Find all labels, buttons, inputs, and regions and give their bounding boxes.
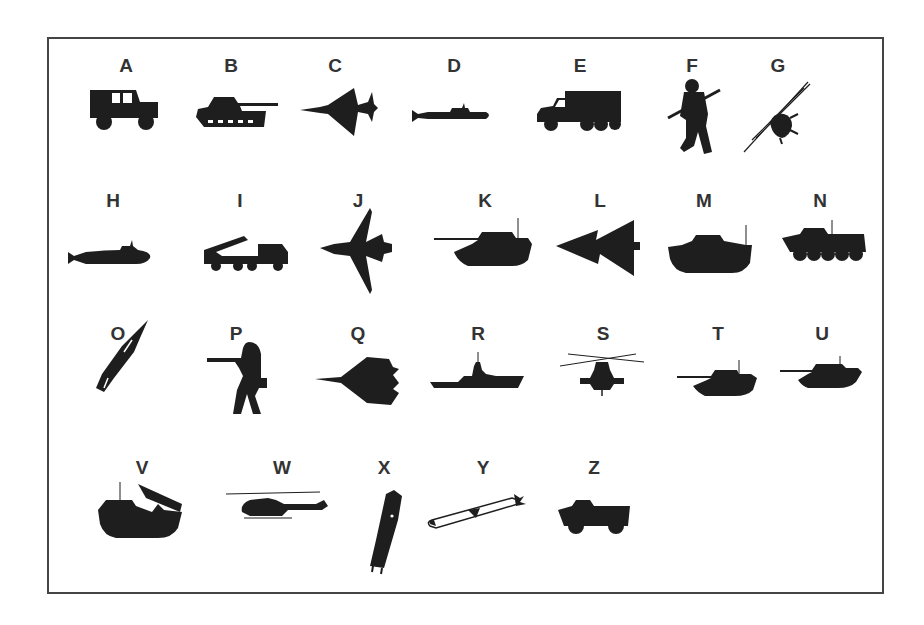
label-x: X <box>378 458 391 477</box>
label-r: R <box>471 324 485 343</box>
missile-icon <box>94 318 150 398</box>
amphibious-vehicle-icon <box>666 223 754 275</box>
label-a: A <box>119 56 133 75</box>
double-delta-jet-icon <box>556 220 642 280</box>
label-k: K <box>478 191 492 210</box>
label-v: V <box>136 458 149 477</box>
soldier-with-rifle-icon <box>666 76 726 156</box>
tank-icon <box>675 356 761 398</box>
soldier-aiming-icon <box>205 338 277 418</box>
label-c: C <box>328 56 342 75</box>
label-z: Z <box>588 458 600 477</box>
tank-icon <box>778 354 866 394</box>
label-d: D <box>447 56 461 75</box>
attack-helicopter-front-icon <box>560 350 646 398</box>
delta-wing-jet-icon <box>300 88 380 138</box>
military-truck-icon <box>535 90 625 134</box>
label-m: M <box>696 191 712 210</box>
amphibious-launcher-icon <box>96 482 186 540</box>
label-l: L <box>594 191 606 210</box>
helicopter-top-view-icon <box>742 80 812 154</box>
rocket-icon <box>364 486 408 574</box>
submarine-icon <box>66 236 152 266</box>
jeep-icon <box>88 88 162 134</box>
label-w: W <box>273 458 291 477</box>
label-b: B <box>224 56 238 75</box>
tank-icon <box>194 93 280 129</box>
armored-car-icon <box>556 496 634 538</box>
wheeled-apc-icon <box>780 220 868 266</box>
label-e: E <box>574 56 587 75</box>
swing-wing-jet-icon <box>320 206 394 296</box>
cruise-missile-icon <box>424 492 530 536</box>
label-u: U <box>815 324 829 343</box>
fighter-jet-top-icon <box>315 355 401 407</box>
label-y: Y <box>477 458 490 477</box>
submarine-icon <box>410 100 492 126</box>
rocket-launcher-truck-icon <box>202 234 290 272</box>
attack-helicopter-side-icon <box>224 488 336 524</box>
label-n: N <box>813 191 827 210</box>
label-f: F <box>686 56 698 75</box>
label-i: I <box>237 191 242 210</box>
warship-icon <box>428 352 526 394</box>
label-s: S <box>597 324 610 343</box>
label-t: T <box>712 324 724 343</box>
label-g: G <box>771 56 786 75</box>
label-h: H <box>106 191 120 210</box>
label-q: Q <box>351 324 366 343</box>
tank-icon <box>432 214 536 266</box>
